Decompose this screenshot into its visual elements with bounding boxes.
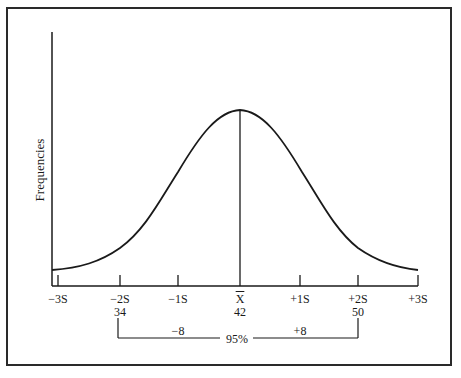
tick-value-50: 50: [352, 306, 364, 318]
normal-curve-plot: [0, 0, 461, 378]
x-axis-ticks: [58, 275, 418, 286]
interval-right-label: +8: [294, 325, 307, 337]
tick-label-minus-1s: −1S: [168, 293, 187, 305]
tick-value-42: 42: [234, 306, 246, 318]
tick-label-plus-3s: +3S: [408, 293, 427, 305]
interval-center-label: 95%: [226, 333, 248, 345]
tick-value-34: 34: [114, 306, 126, 318]
y-axis-label: Frequencies: [32, 139, 48, 202]
interval-left-label: −8: [172, 325, 185, 337]
tick-label-plus-2s: +2S: [348, 293, 367, 305]
tick-label-mean: X: [236, 293, 245, 305]
bell-curve: [52, 110, 418, 270]
tick-label-minus-3s: −3S: [48, 293, 67, 305]
tick-label-plus-1s: +1S: [290, 293, 309, 305]
tick-label-minus-2s: −2S: [110, 293, 129, 305]
